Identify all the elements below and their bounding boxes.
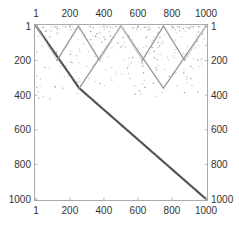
matrix-entry: [101, 42, 102, 43]
matrix-entry: [196, 36, 197, 37]
matrix-entry: [77, 39, 78, 40]
matrix-entry: [160, 54, 161, 55]
matrix-entry: [72, 26, 73, 27]
x-tick-label-top: 1000: [195, 8, 218, 19]
matrix-entry: [43, 96, 44, 97]
matrix-entry: [193, 68, 194, 69]
y-tick-label-left: 1: [25, 21, 31, 32]
matrix-entry: [158, 27, 159, 28]
matrix-entry: [192, 26, 193, 27]
matrix-entry: [49, 67, 50, 68]
matrix-entry: [90, 31, 91, 32]
matrix-entry: [144, 80, 145, 81]
matrix-entry: [105, 39, 106, 40]
matrix-entry: [94, 81, 95, 82]
matrix-entry: [62, 26, 63, 27]
matrix-entry: [134, 85, 135, 86]
matrix-entry: [99, 38, 100, 39]
matrix-entry: [70, 54, 71, 55]
matrix-entry: [154, 57, 155, 58]
matrix-entry: [162, 41, 163, 42]
matrix-entry: [167, 57, 168, 58]
matrix-entry: [143, 47, 144, 48]
y-tick-label-right: 200: [211, 55, 228, 66]
matrix-entry: [54, 26, 55, 27]
y-tick-label-right: 400: [211, 90, 228, 101]
matrix-entry: [104, 29, 105, 30]
matrix-entry: [116, 72, 117, 73]
matrix-plot: 12004006008001000 12004006008001000 1200…: [0, 0, 239, 227]
matrix-entry: [175, 72, 176, 73]
matrix-entry: [169, 76, 170, 77]
matrix-entry: [105, 46, 106, 47]
matrix-entry: [83, 44, 84, 45]
matrix-entry: [44, 67, 45, 68]
x-tick-label-bottom: 400: [96, 205, 113, 216]
matrix-entry: [100, 26, 101, 27]
matrix-entry: [49, 36, 50, 37]
matrix-entry: [149, 29, 150, 30]
matrix-entry: [196, 47, 197, 48]
x-tick-label-top: 800: [164, 8, 181, 19]
matrix-entry: [151, 42, 152, 43]
matrix-entry: [185, 30, 186, 31]
matrix-entry: [51, 26, 52, 27]
matrix-entry: [140, 93, 141, 94]
right-axis-labels: 12004006008001000: [211, 21, 234, 205]
matrix-entry: [201, 58, 202, 59]
matrix-entry: [138, 62, 139, 63]
matrix-entry: [115, 26, 116, 27]
matrix-entry: [125, 46, 126, 47]
matrix-entry: [123, 37, 124, 38]
bottom-axis-labels: 12004006008001000: [33, 205, 217, 216]
matrix-entry: [142, 63, 143, 64]
matrix-entry: [179, 30, 180, 31]
matrix-entry: [168, 59, 169, 60]
matrix-entry: [184, 92, 185, 93]
matrix-entry: [78, 78, 79, 79]
y-tick-label-left: 1000: [9, 194, 32, 205]
matrix-entry: [99, 32, 100, 33]
matrix-entry: [190, 26, 191, 27]
matrix-entry: [111, 80, 112, 81]
matrix-entry: [104, 37, 105, 38]
matrix-entry: [38, 36, 39, 37]
matrix-entry: [64, 76, 65, 77]
matrix-entry: [132, 39, 133, 40]
matrix-entry: [90, 39, 91, 40]
matrix-entry: [190, 78, 191, 79]
matrix-entry: [40, 79, 41, 80]
matrix-entry: [174, 49, 175, 50]
matrix-entry: [106, 26, 107, 27]
y-tick-label-left: 800: [14, 159, 31, 170]
matrix-entry: [156, 69, 157, 70]
matrix-entry: [183, 69, 184, 70]
matrix-entry: [147, 29, 148, 30]
matrix-entry: [159, 45, 160, 46]
x-tick-label-top: 200: [62, 8, 79, 19]
matrix-entry: [200, 60, 201, 61]
matrix-entry: [71, 29, 72, 30]
x-tick-label-top: 1: [33, 8, 39, 19]
matrix-entry: [36, 75, 37, 76]
matrix-entry: [127, 68, 128, 69]
matrix-entry: [92, 35, 93, 36]
matrix-entry: [117, 42, 118, 43]
matrix-entry: [95, 56, 96, 57]
matrix-entry: [133, 27, 134, 28]
matrix-entry: [198, 45, 199, 46]
matrix-entry: [152, 47, 153, 48]
x-tick-label-bottom: 600: [130, 205, 147, 216]
matrix-entry: [77, 81, 78, 82]
matrix-entry: [143, 72, 144, 73]
matrix-entry: [72, 62, 73, 63]
matrix-entry: [205, 45, 206, 46]
matrix-entry: [49, 30, 50, 31]
matrix-entry: [112, 27, 113, 28]
matrix-entry: [173, 28, 174, 29]
matrix-entry: [79, 81, 80, 82]
matrix-entry: [146, 36, 147, 37]
y-tick-label-right: 800: [211, 159, 228, 170]
plot-lines: [36, 26, 206, 199]
matrix-entry: [79, 49, 80, 50]
